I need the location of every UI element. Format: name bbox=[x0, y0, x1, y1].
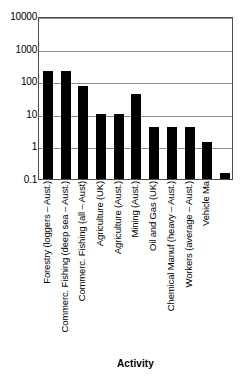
plot-area bbox=[38, 17, 233, 180]
bar bbox=[61, 71, 71, 179]
x-axis-tick: Commerc. Fishing (all – Aust) bbox=[75, 181, 89, 349]
x-axis-tick: Agriculture (UK) bbox=[93, 181, 107, 349]
bar bbox=[114, 114, 124, 179]
bar bbox=[78, 86, 88, 179]
bar bbox=[43, 71, 53, 179]
y-axis-tick-label: 1 bbox=[1, 142, 37, 152]
y-axis-tick-label: 100 bbox=[1, 77, 37, 87]
x-axis-tick-label: Mining (Aust.) bbox=[130, 181, 140, 238]
bar bbox=[220, 173, 230, 179]
x-axis-tick-label: Oil and Gas (UK) bbox=[148, 181, 158, 251]
x-axis-tick-label: Commerc. Fishing (all – Aust) bbox=[77, 181, 87, 301]
x-axis-tick-label: Workers (average – Aust.) bbox=[184, 181, 194, 287]
bar bbox=[202, 142, 212, 179]
y-axis-tick-label: 10 bbox=[1, 110, 37, 120]
x-axis-tick: Vehicle Ma bbox=[199, 181, 213, 349]
bar bbox=[185, 127, 195, 179]
x-axis-tick: Commerc. Fishing (deep sea – Aust.) bbox=[58, 181, 72, 349]
x-axis-tick-label: Chemical Manuf (heavy – Aust.) bbox=[166, 181, 176, 311]
y-axis-tick-labels: 1000010001001010.1 bbox=[0, 0, 37, 382]
chart-figure: 1000010001001010.1 Forestry (loggers – A… bbox=[0, 0, 251, 382]
x-axis-tick-label: Agriculture (UK) bbox=[95, 181, 105, 246]
bar bbox=[96, 114, 106, 179]
bars-layer bbox=[39, 18, 232, 179]
x-axis-tick-label: Agriculture (Aust.) bbox=[113, 181, 123, 254]
x-axis-title: Activity bbox=[38, 358, 233, 369]
y-axis-tick-label: 10000 bbox=[1, 12, 37, 22]
x-axis-tick-label: Forestry (loggers – Aust.) bbox=[42, 181, 52, 284]
x-axis-tick: Workers (average – Aust.) bbox=[182, 181, 196, 349]
x-axis-tick-label: Commerc. Fishing (deep sea – Aust.) bbox=[60, 181, 70, 333]
y-axis-tick-label: 1000 bbox=[1, 45, 37, 55]
bar bbox=[167, 127, 177, 179]
x-axis-tick: Mining (Aust.) bbox=[128, 181, 142, 349]
x-axis-tick-label: Vehicle Ma bbox=[201, 181, 211, 226]
bar bbox=[149, 127, 159, 179]
x-axis-tick: Forestry (loggers – Aust.) bbox=[40, 181, 54, 349]
x-axis-tick: Agriculture (Aust.) bbox=[111, 181, 125, 349]
x-axis-tick: Chemical Manuf (heavy – Aust.) bbox=[164, 181, 178, 349]
bar bbox=[131, 94, 141, 179]
x-axis-tick: Oil and Gas (UK) bbox=[146, 181, 160, 349]
y-axis-tick-label: 0.1 bbox=[1, 175, 37, 185]
x-axis-tick-labels: Forestry (loggers – Aust.)Commerc. Fishi… bbox=[38, 181, 233, 351]
